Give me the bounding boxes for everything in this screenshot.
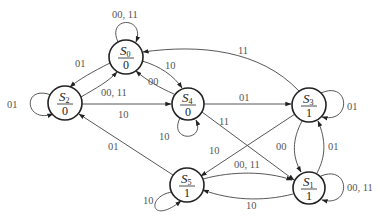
label-s5-s1: 00, 11 xyxy=(234,159,260,170)
state-s2-output: 0 xyxy=(62,104,68,118)
state-s1-output: 1 xyxy=(306,189,312,203)
label-s3-s3: 01 xyxy=(347,101,358,112)
label-s2-s2: 01 xyxy=(7,99,18,110)
label-s0-s4: 10 xyxy=(165,60,176,71)
edge-s3-s1 xyxy=(294,121,302,172)
label-s3-s1: 00 xyxy=(276,141,287,152)
label-s4-s3: 01 xyxy=(239,92,250,103)
label-s2-s4: 10 xyxy=(118,109,129,120)
state-s1: S1 1 xyxy=(293,172,325,204)
label-s2-s0: 00, 11 xyxy=(101,87,127,98)
label-s1-s3: 01 xyxy=(328,141,339,152)
state-s4-output: 0 xyxy=(185,105,191,119)
edge-s5-s1 xyxy=(203,173,292,180)
edge-s0-s0 xyxy=(116,23,138,43)
state-diagram: 00, 11 01 10 01 00, 11 10 00 10 01 11 11… xyxy=(0,0,390,220)
label-s4-s1: 11 xyxy=(219,116,229,127)
label-s5-s5: 10 xyxy=(143,195,154,206)
state-s0-output: 0 xyxy=(123,58,129,72)
state-s5-output: 1 xyxy=(184,186,190,200)
label-s5-s2: 01 xyxy=(108,141,119,152)
label-s3-s5: 10 xyxy=(209,145,220,156)
edge-s5-s2 xyxy=(79,114,173,175)
edge-s1-s5 xyxy=(203,190,293,199)
state-s3-output: 1 xyxy=(306,106,312,120)
label-s3-s0: 11 xyxy=(238,45,248,56)
label-s4-s4: 10 xyxy=(159,131,170,142)
label-s0-s0: 00, 11 xyxy=(112,9,138,20)
state-s0: S0 0 xyxy=(109,40,143,74)
state-s3: S3 1 xyxy=(292,88,326,122)
state-s4: S4 0 xyxy=(172,88,204,120)
edge-s1-s3 xyxy=(317,121,324,173)
label-s1-s1: 00, 11 xyxy=(347,182,373,193)
label-s1-s5: 10 xyxy=(246,200,257,211)
state-s2: S2 0 xyxy=(48,86,82,120)
label-s4-s0: 00 xyxy=(148,76,159,87)
label-s0-s2: 01 xyxy=(75,58,86,69)
state-s5: S5 1 xyxy=(170,168,204,202)
